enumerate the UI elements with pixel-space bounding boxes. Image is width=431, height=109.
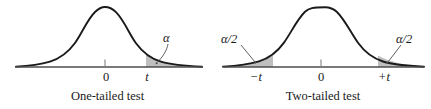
one-tailed-alpha-leader-dot <box>156 62 158 64</box>
one-tailed-tick-label-t: t <box>140 71 154 84</box>
one-tailed-alpha-leader-line <box>157 44 168 63</box>
two-tailed-alpha-left-leader-line <box>241 45 255 62</box>
two-tailed-panel: α/2 α/2 −t 0 +t Two-tailed test <box>215 0 431 109</box>
two-tailed-tick-label-pos-t: +t <box>373 71 395 84</box>
one-tailed-panel: α 0 t One-tailed test <box>0 0 215 109</box>
one-tailed-tick-label-zero: 0 <box>99 71 113 84</box>
two-tailed-alpha-right-label: α/2 <box>396 33 412 46</box>
two-tailed-alpha-right-leader-line <box>388 45 401 62</box>
two-tailed-alpha-left-leader-dot <box>254 62 256 64</box>
two-tailed-normal-curve <box>223 7 424 66</box>
two-tailed-tick-label-zero: 0 <box>314 71 328 84</box>
two-tailed-alpha-right-leader-dot <box>387 62 389 64</box>
one-tailed-alpha-label: α <box>163 32 170 45</box>
two-tailed-caption: Two-tailed test <box>215 90 431 103</box>
one-tailed-normal-curve <box>16 7 202 67</box>
two-tailed-tick-label-neg-t: −t <box>245 71 267 84</box>
hypothesis-test-figure: α 0 t One-tailed test α/2 <box>0 0 431 109</box>
one-tailed-caption: One-tailed test <box>0 90 215 103</box>
two-tailed-alpha-left-label: α/2 <box>221 33 237 46</box>
